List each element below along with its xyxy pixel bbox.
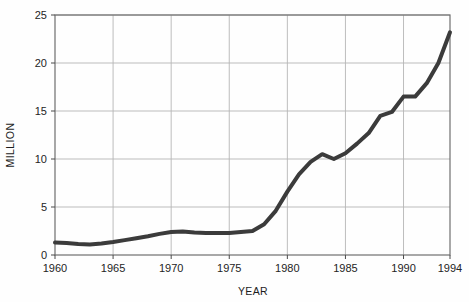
x-tick-label: 1965 (101, 262, 125, 274)
line-chart: 19601965197019751980198519901994 0510152… (0, 0, 469, 302)
x-tick-label: 1985 (333, 262, 357, 274)
y-tick-label: 10 (35, 153, 47, 165)
x-axis-title: YEAR (238, 285, 268, 297)
chart-container: 19601965197019751980198519901994 0510152… (0, 0, 469, 302)
y-tick-label: 20 (35, 57, 47, 69)
y-tick-label: 5 (41, 201, 47, 213)
x-tick-label: 1990 (391, 262, 415, 274)
x-tick-label: 1960 (43, 262, 67, 274)
x-tick-label: 1975 (217, 262, 241, 274)
x-tick-label: 1994 (438, 262, 462, 274)
x-tick-label: 1970 (159, 262, 183, 274)
y-tick-label: 25 (35, 9, 47, 21)
y-tick-label: 0 (41, 249, 47, 261)
chart-background (0, 0, 469, 302)
y-tick-label: 15 (35, 105, 47, 117)
y-axis-title: MILLION (4, 123, 16, 168)
x-tick-label: 1980 (275, 262, 299, 274)
